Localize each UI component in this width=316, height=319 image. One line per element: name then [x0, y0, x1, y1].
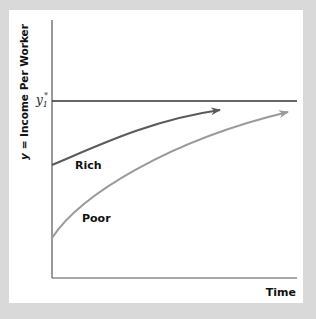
x-axis-label: Time	[266, 286, 296, 299]
poor-label: Poor	[82, 212, 111, 225]
rich-curve	[52, 110, 220, 165]
steady-state-label: y1*	[35, 91, 48, 109]
y-axis-label: y = Income Per Worker	[18, 23, 30, 160]
rich-label: Rich	[75, 159, 102, 172]
convergence-diagram: Rich Poor Time y1* y = Income Per Worker	[0, 0, 316, 319]
